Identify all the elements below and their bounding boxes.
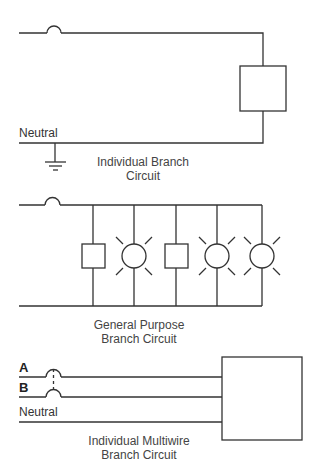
caption-general-purpose: General Purpose Branch Circuit [84, 318, 194, 346]
caption-individual-branch: Individual Branch Circuit [88, 155, 198, 183]
phase-a-label: A [19, 360, 28, 375]
phase-b-label: B [19, 380, 28, 395]
caption-multiwire: Individual Multiwire Branch Circuit [78, 434, 200, 462]
load-box-icon [82, 244, 105, 268]
breaker-icon [45, 198, 60, 205]
neutral-label: Neutral [19, 405, 58, 419]
load-box-icon [222, 357, 302, 440]
load-box-icon [165, 244, 188, 268]
hot-wire [19, 33, 263, 66]
individual-branch-circuit [19, 26, 286, 170]
breaker-icon [47, 26, 61, 33]
general-purpose-branch-circuit [19, 198, 280, 306]
breaker-b-icon [46, 390, 61, 398]
multiwire-branch-circuit [19, 357, 302, 440]
circuit-diagrams [0, 0, 323, 472]
neutral-label: Neutral [19, 126, 58, 140]
load-box-icon [240, 66, 286, 111]
ground-icon [45, 143, 66, 170]
